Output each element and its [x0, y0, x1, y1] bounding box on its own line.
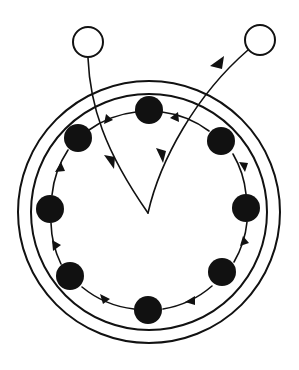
node-upper-left[interactable] — [64, 124, 92, 152]
node-external-left[interactable] — [73, 27, 103, 57]
node-left[interactable] — [36, 195, 64, 223]
orbit-arrow-left-to-lower-left — [52, 240, 61, 251]
orbit-arc-top-to-upper-left — [89, 112, 136, 130]
node-lower-left[interactable] — [56, 262, 84, 290]
flow-arrow-inbound — [104, 155, 115, 169]
circular-flow-diagram — [0, 0, 299, 370]
orbit-arc-upper-right-to-top — [162, 112, 209, 131]
orbit-arc-bottom-to-lower-right — [163, 286, 212, 309]
flow-path-outbound — [148, 50, 248, 213]
node-lower-right[interactable] — [208, 258, 236, 286]
orbit-arrow-bottom-to-lower-right — [185, 296, 195, 305]
flow-arrow-outbound-head — [210, 56, 224, 69]
node-upper-right[interactable] — [207, 127, 235, 155]
node-bottom[interactable] — [134, 296, 162, 324]
orbit-arc-right-to-upper-right — [233, 154, 246, 194]
node-right[interactable] — [232, 194, 260, 222]
node-external-right[interactable] — [245, 25, 275, 55]
flow-arrow-outbound-mid — [156, 148, 166, 163]
orbit-arc-upper-left-to-left — [52, 150, 68, 195]
diagram-canvas — [0, 0, 299, 370]
node-top[interactable] — [135, 96, 163, 124]
orbit-arrow-top-to-upper-left — [104, 114, 113, 124]
